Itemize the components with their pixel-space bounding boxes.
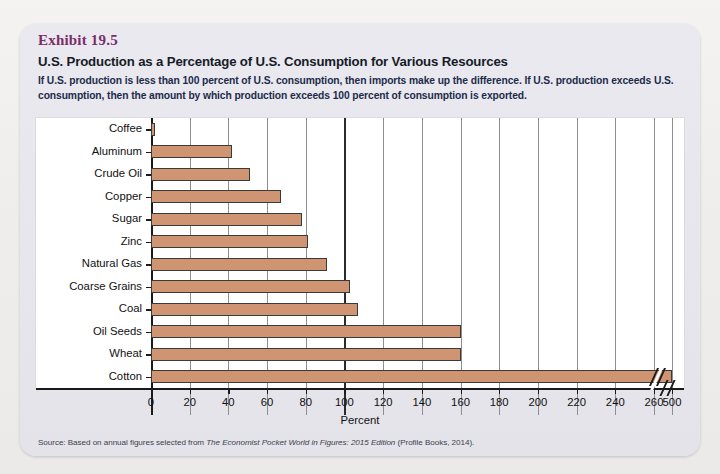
x-tick-180 (499, 388, 500, 394)
bar-aluminum (151, 145, 232, 158)
x-tick-100 (344, 388, 345, 394)
x-tick-240 (615, 388, 616, 394)
bar-sugar (151, 213, 302, 226)
y-tick-zinc (146, 242, 151, 243)
chart-plot-wrapper: CoffeeAluminumCrude OilCopperSugarZincNa… (36, 118, 684, 415)
y-axis-label-coffee: Coffee (20, 122, 142, 134)
bar-oil-seeds (151, 325, 461, 338)
y-axis-label-natural-gas: Natural Gas (20, 257, 142, 269)
y-tick-crude-oil (146, 174, 151, 175)
source-note: Source: Based on annual figures selected… (38, 438, 474, 447)
y-tick-coal (146, 309, 151, 310)
exhibit-number: Exhibit 19.5 (38, 32, 118, 49)
x-axis-label-220: 220 (567, 396, 586, 408)
exhibit-subtitle: If U.S. production is less than 100 perc… (38, 74, 683, 104)
y-tick-sugar (146, 219, 151, 220)
bar-coarse-grains (151, 280, 350, 293)
x-tick-80 (306, 388, 307, 394)
x-axis-label-500: 500 (663, 396, 682, 408)
y-tick-natural-gas (146, 264, 151, 265)
y-axis-label-cotton: Cotton (20, 370, 142, 382)
y-axis-label-oil-seeds: Oil Seeds (20, 325, 142, 337)
x-axis-label-100: 100 (335, 396, 354, 408)
exhibit-title: U.S. Production as a Percentage of U.S. … (38, 54, 508, 69)
x-tick-260 (654, 388, 655, 394)
y-axis-label-zinc: Zinc (20, 235, 142, 247)
bar-coffee (151, 123, 155, 136)
x-axis-label-160: 160 (451, 396, 470, 408)
x-axis-label-140: 140 (412, 396, 431, 408)
y-tick-copper (146, 197, 151, 198)
x-axis-label-20: 20 (183, 396, 196, 408)
bar-wheat (151, 348, 461, 361)
x-tick-120 (383, 388, 384, 394)
y-axis-label-coal: Coal (20, 302, 142, 314)
x-axis-label-180: 180 (490, 396, 509, 408)
y-axis-label-copper: Copper (20, 190, 142, 202)
exhibit-card: Exhibit 19.5 U.S. Production as a Percen… (20, 24, 700, 456)
y-tick-coffee (146, 129, 151, 130)
x-tick-0 (151, 388, 152, 394)
x-axis-label-0: 0 (148, 396, 154, 408)
x-axis-label-80: 80 (299, 396, 312, 408)
y-axis-label-crude-oil: Crude Oil (20, 167, 142, 179)
x-tick-500 (672, 388, 673, 394)
bar-copper (151, 190, 281, 203)
y-tick-wheat (146, 354, 151, 355)
y-tick-aluminum (146, 152, 151, 153)
x-axis-label-40: 40 (222, 396, 235, 408)
x-axis-label-120: 120 (374, 396, 393, 408)
bar-natural-gas (151, 258, 327, 271)
y-axis-label-coarse-grains: Coarse Grains (20, 280, 142, 292)
source-italic-title: The Economist Pocket World in Figures: 2… (206, 438, 395, 447)
x-axis-label-60: 60 (261, 396, 274, 408)
bar-cotton (151, 370, 672, 383)
x-tick-20 (190, 388, 191, 394)
y-axis-label-wheat: Wheat (20, 347, 142, 359)
x-tick-220 (577, 388, 578, 394)
x-tick-140 (422, 388, 423, 394)
x-tick-200 (538, 388, 539, 394)
x-axis-label-260: 260 (645, 396, 664, 408)
x-axis-line (36, 388, 684, 390)
x-axis-label-240: 240 (606, 396, 625, 408)
bar-crude-oil (151, 168, 250, 181)
gridline-500 (672, 118, 673, 415)
x-axis-label-200: 200 (528, 396, 547, 408)
y-tick-oil-seeds (146, 332, 151, 333)
source-suffix: (Profile Books, 2014). (395, 438, 474, 447)
y-axis-label-aluminum: Aluminum (20, 145, 142, 157)
y-axis-label-sugar: Sugar (20, 212, 142, 224)
x-tick-60 (267, 388, 268, 394)
y-tick-coarse-grains (146, 287, 151, 288)
x-axis-title: Percent (36, 414, 684, 426)
x-tick-40 (228, 388, 229, 394)
source-prefix: Source: Based on annual figures selected… (38, 438, 206, 447)
y-tick-cotton (146, 377, 151, 378)
bar-coal (151, 303, 358, 316)
bar-zinc (151, 235, 308, 248)
x-tick-160 (461, 388, 462, 394)
